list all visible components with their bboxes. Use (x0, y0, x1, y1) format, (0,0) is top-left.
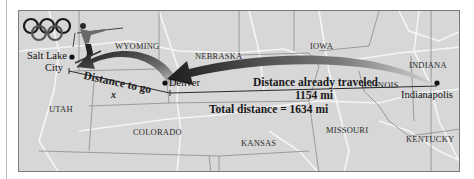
olympic-rings-icon (24, 19, 70, 40)
city-label-denver: Denver (169, 77, 200, 88)
city-label-salt-lake-line2: City (45, 62, 63, 73)
distance-already-traveled-value: 1154 mi (295, 89, 333, 101)
route-map: WYOMING NEBRASKA IOWA INDIANA ILLINOIS U… (18, 10, 460, 172)
state-label-nebraska: NEBRASKA (195, 51, 242, 61)
page-margin-rule (6, 0, 7, 179)
state-label-colorado: COLORADO (133, 127, 182, 137)
map-graphics (19, 11, 460, 172)
state-label-indiana: INDIANA (409, 60, 447, 70)
state-label-kansas: KANSAS (241, 138, 276, 148)
indianapolis-dot (434, 80, 439, 85)
state-label-iowa: IOWA (310, 41, 333, 51)
city-label-salt-lake-line1: Salt Lake (27, 50, 67, 61)
total-distance-label: Total distance = 1634 mi (209, 103, 328, 115)
state-label-utah: UTAH (49, 104, 73, 114)
city-label-indianapolis: Indianapolis (401, 89, 453, 100)
state-label-missouri: MISSOURI (326, 125, 368, 135)
variable-x-label: x (111, 89, 116, 100)
state-label-wyoming: WYOMING (115, 41, 159, 51)
distance-already-traveled-label: Distance already traveled (253, 76, 378, 88)
denver-dot (162, 80, 167, 85)
salt-lake-city-dot (69, 54, 74, 59)
state-label-kentucky: KENTUCKY (406, 134, 454, 144)
